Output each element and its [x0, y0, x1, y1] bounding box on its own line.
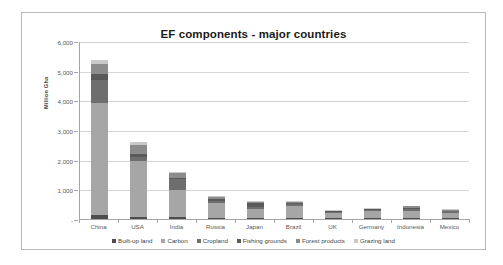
x-axis-tick [196, 219, 197, 223]
x-axis-tick-label: China [90, 223, 106, 230]
bar-segment[interactable] [91, 103, 108, 214]
y-axis-tick [74, 101, 78, 102]
x-axis-tick [313, 219, 314, 223]
y-axis-tick-label: 2,000 [58, 157, 73, 164]
legend-label: Grazing land [360, 237, 395, 244]
legend-item[interactable]: Carbon [161, 237, 187, 244]
bar-segment[interactable] [130, 145, 147, 154]
gridline [80, 101, 469, 102]
legend-swatch-icon [237, 239, 241, 243]
x-axis-tick [430, 219, 431, 223]
x-axis-tick [157, 219, 158, 223]
x-axis-tick-label: Russia [206, 223, 225, 230]
x-axis-tick-label: Japan [246, 223, 263, 230]
x-axis-tick-label: Mexico [440, 223, 460, 230]
bar-segment[interactable] [169, 217, 186, 219]
legend-item[interactable]: Cropland [197, 237, 228, 244]
y-axis-tick-label: 3,000 [58, 128, 73, 135]
bar-segment[interactable] [403, 211, 420, 218]
x-axis-tick [235, 219, 236, 223]
x-axis-tick [469, 219, 470, 223]
chart-legend: Built-up landCarbonCroplandFishing groun… [22, 237, 485, 244]
legend-label: Cropland [203, 237, 228, 244]
x-axis-tick [352, 219, 353, 223]
chart-frame: EF components - major countries Million … [21, 12, 486, 250]
bar-segment[interactable] [364, 211, 381, 218]
y-axis-tick-label: - [71, 217, 73, 224]
gridline [80, 131, 469, 132]
bar-segment[interactable] [169, 190, 186, 217]
y-axis-labels: -1,0002,0003,0004,0005,0006,000 [22, 42, 77, 220]
bar-segment[interactable] [247, 209, 264, 219]
legend-swatch-icon [354, 239, 358, 243]
x-axis-tick-label: Brazil [286, 223, 301, 230]
bar-segment[interactable] [169, 179, 186, 190]
gridline [80, 72, 469, 73]
x-axis-tick [79, 219, 80, 223]
legend-swatch-icon [161, 239, 165, 243]
y-axis-tick [74, 72, 78, 73]
y-axis-tick [74, 220, 78, 221]
bar-segment[interactable] [403, 218, 420, 219]
bar-stack[interactable] [91, 60, 108, 219]
y-axis-tick [74, 190, 78, 191]
bar-segment[interactable] [247, 218, 264, 219]
bar-segment[interactable] [91, 80, 108, 104]
chart-title: EF components - major countries [22, 28, 485, 40]
bar-segment[interactable] [208, 203, 225, 219]
legend-item[interactable]: Fishing grounds [237, 237, 287, 244]
legend-label: Fishing grounds [243, 237, 287, 244]
legend-item[interactable]: Built-up land [112, 237, 152, 244]
y-axis-tick-label: 1,000 [58, 187, 73, 194]
plot-area [79, 42, 469, 220]
bar-segment[interactable] [130, 161, 147, 217]
x-axis-tick-label: UK [328, 223, 337, 230]
x-axis-tick [274, 219, 275, 223]
x-axis-labels: ChinaUSAIndiaRussiaJapanBrazilUKGermanyI… [79, 223, 469, 235]
gridline [80, 42, 469, 43]
legend-item[interactable]: Forest products [296, 237, 345, 244]
bar-stack[interactable] [364, 208, 381, 219]
x-axis-tick-label: Germany [359, 223, 384, 230]
bar-segment[interactable] [286, 218, 303, 219]
x-axis-tick [391, 219, 392, 223]
bar-segment[interactable] [325, 218, 342, 219]
x-axis-tick [118, 219, 119, 223]
x-axis-tick-label: Indonesia [397, 223, 424, 230]
bar-segment[interactable] [286, 206, 303, 218]
bar-segment[interactable] [208, 218, 225, 219]
legend-label: Forest products [302, 237, 345, 244]
bar-stack[interactable] [286, 201, 303, 219]
y-axis-tick-label: 5,000 [58, 68, 73, 75]
y-axis-tick-label: 4,000 [58, 98, 73, 105]
legend-swatch-icon [296, 239, 300, 243]
x-axis-tick-label: India [170, 223, 183, 230]
bar-segment[interactable] [91, 215, 108, 219]
bar-stack[interactable] [130, 142, 147, 219]
bar-stack[interactable] [442, 209, 459, 219]
bar-stack[interactable] [325, 210, 342, 219]
bar-stack[interactable] [169, 172, 186, 219]
legend-label: Carbon [167, 237, 187, 244]
legend-item[interactable]: Grazing land [354, 237, 395, 244]
bar-segment[interactable] [442, 218, 459, 219]
bar-segment[interactable] [91, 64, 108, 74]
bar-stack[interactable] [247, 201, 264, 219]
bar-stack[interactable] [403, 206, 420, 219]
legend-swatch-icon [197, 239, 201, 243]
x-axis-tick-label: USA [131, 223, 144, 230]
bar-segment[interactable] [130, 217, 147, 219]
y-axis-tick [74, 131, 78, 132]
legend-swatch-icon [112, 239, 116, 243]
bar-segment[interactable] [364, 218, 381, 219]
y-axis-tick [74, 161, 78, 162]
bar-stack[interactable] [208, 196, 225, 219]
y-axis-tick [74, 42, 78, 43]
legend-label: Built-up land [118, 237, 152, 244]
y-axis-tick-label: 6,000 [58, 39, 73, 46]
